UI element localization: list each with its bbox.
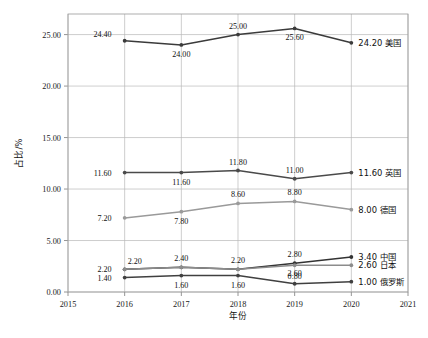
data-point-俄罗斯[interactable] bbox=[179, 274, 183, 278]
point-label-美国: 25.00 bbox=[229, 22, 247, 31]
x-tick-label: 2018 bbox=[230, 300, 247, 309]
y-tick-label: 10.00 bbox=[42, 185, 61, 194]
point-label-美国: 25.60 bbox=[286, 33, 304, 42]
x-tick-label: 2017 bbox=[173, 300, 190, 309]
data-point-美国[interactable] bbox=[236, 33, 240, 37]
data-point-英国[interactable] bbox=[179, 171, 183, 175]
data-point-俄罗斯[interactable] bbox=[293, 282, 297, 286]
data-point-德国[interactable] bbox=[293, 199, 297, 203]
data-point-日本[interactable] bbox=[179, 265, 183, 269]
point-label-英国: 11.00 bbox=[286, 166, 304, 175]
point-label-德国: 8.80 bbox=[288, 188, 302, 197]
data-point-美国[interactable] bbox=[123, 39, 127, 43]
series-end-label-日本: 2.60 日本 bbox=[358, 260, 396, 270]
data-point-英国[interactable] bbox=[236, 169, 240, 173]
y-tick-label: 5.00 bbox=[46, 237, 61, 246]
x-tick-label: 2019 bbox=[286, 300, 303, 309]
x-tick-label: 2015 bbox=[60, 300, 77, 309]
x-tick-label: 2020 bbox=[343, 300, 360, 309]
point-label-中国: 2.80 bbox=[288, 250, 302, 259]
data-point-德国[interactable] bbox=[123, 216, 127, 220]
point-label-中国: 2.20 bbox=[128, 257, 142, 266]
point-label-中国: 2.20 bbox=[231, 256, 245, 265]
x-tick-label: 2021 bbox=[400, 300, 417, 309]
data-point-日本[interactable] bbox=[123, 267, 127, 271]
point-label-美国: 24.00 bbox=[172, 50, 190, 59]
point-label-德国: 8.60 bbox=[231, 190, 245, 199]
x-tick-label: 2016 bbox=[116, 300, 133, 309]
data-point-日本[interactable] bbox=[349, 263, 353, 267]
point-label-俄罗斯: 1.60 bbox=[174, 281, 188, 290]
point-label-英国: 11.80 bbox=[229, 158, 247, 167]
series-end-label-德国: 8.00 德国 bbox=[358, 205, 395, 215]
chart-canvas: 0.005.0010.0015.0020.0025.00201520162017… bbox=[0, 0, 428, 338]
point-label-俄罗斯: 1.40 bbox=[97, 274, 111, 283]
point-label-俄罗斯: 1.60 bbox=[231, 281, 245, 290]
data-point-英国[interactable] bbox=[123, 171, 127, 175]
data-point-俄罗斯[interactable] bbox=[123, 276, 127, 280]
data-point-德国[interactable] bbox=[349, 208, 353, 212]
point-label-中国: 2.40 bbox=[174, 254, 188, 263]
data-point-日本[interactable] bbox=[293, 263, 297, 267]
data-point-德国[interactable] bbox=[179, 210, 183, 214]
point-label-德国: 7.80 bbox=[174, 217, 188, 226]
data-point-英国[interactable] bbox=[349, 171, 353, 175]
data-point-美国[interactable] bbox=[349, 41, 353, 45]
data-point-德国[interactable] bbox=[236, 202, 240, 206]
data-point-日本[interactable] bbox=[236, 267, 240, 271]
series-end-label-俄罗斯: 1.00 俄罗斯 bbox=[358, 277, 404, 287]
point-label-英国: 11.60 bbox=[172, 178, 190, 187]
series-end-label-英国: 11.60 英国 bbox=[358, 168, 401, 178]
point-label-美国: 24.40 bbox=[93, 30, 111, 39]
line-chart: 0.005.0010.0015.0020.0025.00201520162017… bbox=[0, 0, 428, 338]
y-axis-title: 占比/% bbox=[13, 138, 24, 167]
data-point-俄罗斯[interactable] bbox=[349, 280, 353, 284]
y-tick-label: 20.00 bbox=[42, 82, 61, 91]
data-point-中国[interactable] bbox=[349, 255, 353, 259]
point-label-俄罗斯: 0.80 bbox=[288, 272, 302, 281]
y-tick-label: 0.00 bbox=[46, 288, 61, 297]
x-axis-title: 年份 bbox=[229, 310, 247, 321]
data-point-美国[interactable] bbox=[179, 43, 183, 47]
point-label-英国: 11.60 bbox=[94, 169, 112, 178]
data-point-美国[interactable] bbox=[293, 27, 297, 31]
data-point-英国[interactable] bbox=[293, 177, 297, 181]
y-tick-label: 15.00 bbox=[42, 134, 61, 143]
data-point-俄罗斯[interactable] bbox=[236, 274, 240, 278]
point-label-德国: 7.20 bbox=[97, 214, 111, 223]
series-end-label-美国: 24.20 美国 bbox=[358, 38, 401, 48]
y-tick-label: 25.00 bbox=[42, 31, 61, 40]
